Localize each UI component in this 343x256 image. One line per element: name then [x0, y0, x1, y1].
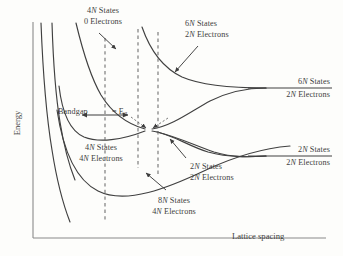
bandgap-text: Bandgap — [58, 107, 88, 116]
dashed-guides — [105, 29, 158, 222]
bandgap-equation: = Eg — [112, 107, 127, 119]
asymptote-label-upper-states: 6N States — [252, 77, 330, 88]
annotation-mid-left-line2: 4N Electrons — [62, 154, 140, 165]
annotation-mid-left: 4N States 4N Electrons — [62, 143, 140, 164]
annotation-top-left-line1: 4N States — [66, 6, 140, 17]
x-axis-label: Lattice spacing — [232, 231, 284, 241]
bandgap-equals: = E — [112, 107, 124, 116]
curve-pinch-to-upper — [152, 88, 266, 129]
leader-top-left — [99, 33, 116, 49]
annotation-top-right: 6N States 2N Electrons — [185, 19, 271, 40]
band-curves — [41, 23, 290, 222]
annotation-top-left-line2: 0 Electrons — [66, 17, 140, 28]
bandgap-label: Bandgap — [58, 107, 88, 118]
annotation-mid-left-line1: 4N States — [62, 143, 140, 154]
curve-leftmost — [41, 23, 70, 222]
annotation-top-right-line2: 2N Electrons — [185, 30, 271, 41]
diagram-canvas — [0, 0, 343, 256]
annotation-bottom: 8N States 4N Electrons — [133, 196, 215, 217]
y-axis-label: Energy — [12, 93, 22, 153]
leader-bottom — [146, 173, 166, 190]
annotation-bottom-line1: 8N States — [133, 196, 215, 207]
annotation-bottom-line2: 4N Electrons — [133, 207, 215, 218]
asymptote-label-lower-states: 2N States — [252, 145, 330, 156]
asymptote-label-lower-electrons: 2N Electrons — [252, 158, 330, 169]
bandgap-subscript: g — [124, 109, 127, 116]
leader-top-right — [175, 46, 198, 72]
band-diagram-figure: Energy Lattice spacing 4N States 0 Elect… — [0, 0, 343, 256]
asymptote-label-upper-electrons: 2N Electrons — [252, 90, 330, 101]
annotation-top-left: 4N States 0 Electrons — [66, 6, 140, 27]
annotation-top-right-line1: 6N States — [185, 19, 271, 30]
annotation-mid-right-line2: 2N Electrons — [190, 173, 276, 184]
